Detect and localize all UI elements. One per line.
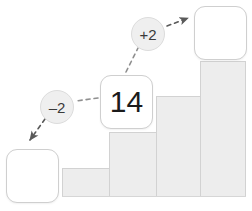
badge-minus-two-label: –2: [49, 100, 66, 115]
badge-plus-two[interactable]: +2: [131, 17, 165, 51]
connector-minus-two-to-answer: [30, 119, 45, 140]
value-card-number: 14: [110, 87, 143, 117]
badge-minus-two[interactable]: –2: [40, 90, 74, 124]
answer-card-plus-two[interactable]: [194, 6, 247, 60]
badge-plus-two-label: +2: [139, 27, 156, 42]
connector-value-to-plus-two: [126, 48, 138, 72]
answer-card-minus-two[interactable]: [6, 149, 59, 203]
diagram-canvas: 14 +2 –2: [0, 0, 252, 211]
connector-value-to-minus-two: [76, 98, 98, 101]
value-card[interactable]: 14: [100, 75, 153, 129]
connector-plus-two-to-answer: [167, 18, 188, 26]
